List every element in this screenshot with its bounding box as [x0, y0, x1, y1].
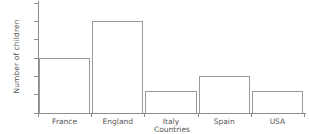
bar-usa	[252, 91, 303, 113]
bar-italy	[145, 91, 196, 113]
x-axis-line	[35, 113, 306, 114]
bar-chart: Number of children 051015202530 FranceEn…	[0, 0, 309, 134]
y-tick-mark	[34, 21, 38, 22]
plot-area	[39, 3, 305, 113]
bar-france	[39, 58, 90, 113]
y-tick-mark	[34, 39, 38, 40]
y-tick-mark	[34, 94, 38, 95]
bar-england	[92, 21, 143, 113]
y-axis-title: Number of children	[12, 12, 21, 102]
y-tick-mark	[34, 58, 38, 59]
bar-spain	[199, 76, 250, 113]
x-tick-mark	[304, 113, 305, 117]
y-tick-mark	[34, 3, 38, 4]
y-tick-mark	[34, 76, 38, 77]
x-tick-mark-origin	[38, 113, 39, 117]
x-axis-title: Countries	[39, 125, 305, 134]
